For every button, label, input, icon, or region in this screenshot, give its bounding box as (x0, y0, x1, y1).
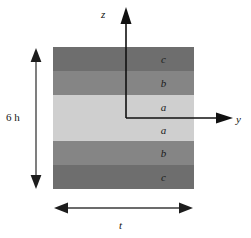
layer-label-b-bottom: b (53, 147, 194, 159)
layer-label-b-top: b (53, 77, 194, 89)
layer-c-bottom: c (53, 165, 194, 189)
layer-c-top: c (53, 47, 194, 71)
y-axis-label: y (236, 113, 241, 125)
layer-b-top: b (53, 71, 194, 95)
thickness-dimension-arrow (31, 48, 42, 189)
width-dimension-arrow (54, 203, 193, 214)
layer-a-upper: a (53, 95, 194, 118)
laminate-cross-section-figure: c b a a b c (0, 0, 251, 238)
layer-label-a-upper: a (53, 101, 194, 113)
z-axis-label: z (101, 8, 105, 20)
layer-b-bottom: b (53, 141, 194, 165)
layer-label-c-top: c (53, 53, 194, 65)
width-dimension-label: t (119, 219, 122, 231)
laminate-stack: c b a a b c (53, 47, 194, 189)
layer-a-lower: a (53, 118, 194, 141)
layer-label-c-bottom: c (53, 171, 194, 183)
thickness-dimension-label: 6 h (6, 111, 20, 123)
layer-label-a-lower: a (53, 124, 194, 136)
